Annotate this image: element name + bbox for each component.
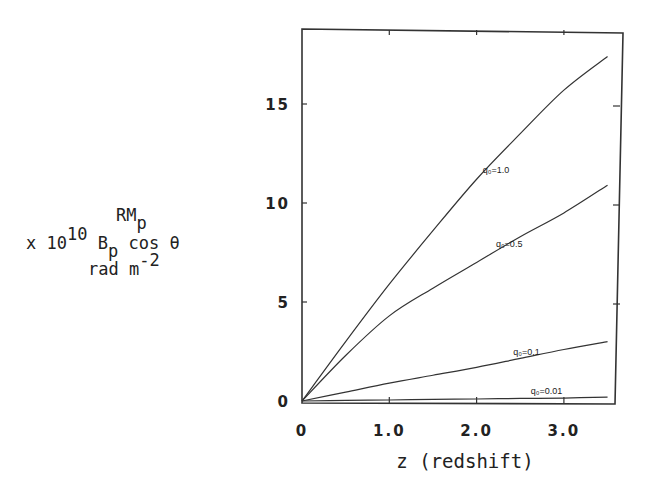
curve-labels: q₀=1.0q₀=0.5q₀=0.1q₀=0.01 bbox=[483, 165, 563, 396]
x-tick-label: 0 bbox=[296, 422, 308, 440]
x-axis-label: z (redshift) bbox=[396, 450, 533, 472]
curve-label: q₀=0.5 bbox=[496, 239, 523, 249]
x-tick-label: 2.0 bbox=[460, 422, 493, 440]
y-tick-label: 15 bbox=[265, 96, 290, 114]
curve-q-0-01 bbox=[302, 397, 608, 401]
data-curves bbox=[302, 56, 608, 401]
x-tick-label: 3.0 bbox=[548, 422, 581, 440]
curve-q-0-5 bbox=[302, 185, 608, 401]
curve-label: q₀=0.01 bbox=[531, 386, 563, 396]
x-tick-label: 1.0 bbox=[373, 422, 406, 440]
chart-plot-area: 01.02.03.0051015 q₀=1.0q₀=0.5q₀=0.1q₀=0.… bbox=[0, 0, 646, 492]
y-tick-label: 0 bbox=[278, 393, 290, 411]
y-tick-label: 10 bbox=[265, 195, 290, 213]
curve-label: q₀=0.1 bbox=[513, 347, 540, 357]
curve-label: q₀=1.0 bbox=[483, 165, 510, 175]
curve-q-1-0 bbox=[302, 56, 608, 401]
y-tick-label: 5 bbox=[278, 294, 290, 312]
